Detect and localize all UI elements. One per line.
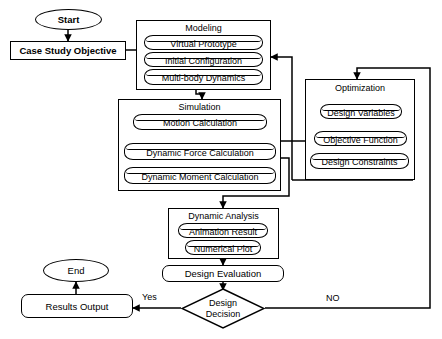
item-objective-function-label: Objective Function [323,135,398,145]
item-animation-result-label: Animation Result [189,227,257,237]
item-animation-result[interactable]: Animation Result [178,223,268,238]
node-case-study-objective[interactable]: Case Study Objective [10,41,126,60]
item-design-constraints[interactable]: Design Constraints [310,153,409,169]
item-multi-body-dynamics[interactable]: Multi-body Dynamics [144,69,263,85]
item-motion-calculation[interactable]: Motion Calculation [133,114,267,130]
item-dynamic-force-calculation-label: Dynamic Force Calculation [146,148,254,158]
node-end[interactable]: End [43,259,109,282]
item-multi-body-dynamics-label: Multi-body Dynamics [162,73,246,83]
design-decision-diamond-shape [181,288,265,329]
flowchart-canvas: Start Case Study Objective Modeling Virt… [0,0,442,339]
item-dynamic-moment-calculation[interactable]: Dynamic Moment Calculation [124,167,276,184]
node-end-label: End [68,265,85,276]
node-results-output-label: Results Output [46,301,109,312]
node-case-study-objective-label: Case Study Objective [19,45,116,56]
group-dynamic-analysis-title: Dynamic Analysis [169,211,278,221]
item-dynamic-moment-calculation-label: Dynamic Moment Calculation [141,172,258,182]
item-initial-configuration[interactable]: Initial Configuration [144,52,263,67]
node-design-evaluation-label: Design Evaluation [185,268,262,279]
node-start-label: Start [58,14,80,25]
item-numerical-plot[interactable]: Numerical Plot [185,240,261,255]
item-objective-function[interactable]: Objective Function [314,131,407,146]
item-numerical-plot-label: Numerical Plot [194,244,253,254]
edge-label-yes: Yes [141,292,158,302]
edge-modeling-to-simulation [196,90,202,99]
item-dynamic-force-calculation[interactable]: Dynamic Force Calculation [124,143,276,160]
item-design-variables[interactable]: Design Variables [320,104,402,119]
node-design-evaluation[interactable]: Design Evaluation [162,265,284,282]
item-design-variables-label: Design Variables [327,108,394,118]
item-virtual-prototype-label: Virtual Prototype [170,39,236,49]
node-start[interactable]: Start [35,9,102,30]
group-modeling-title: Modeling [137,23,270,33]
node-results-output[interactable]: Results Output [21,294,133,318]
node-design-decision[interactable]: Design Decision [181,288,265,329]
edge-label-no: NO [325,293,341,303]
item-design-constraints-label: Design Constraints [321,157,397,167]
group-simulation-title: Simulation [119,102,280,112]
group-optimization-title: Optimization [306,83,414,93]
item-motion-calculation-label: Motion Calculation [163,118,237,128]
item-virtual-prototype[interactable]: Virtual Prototype [144,35,263,50]
item-initial-configuration-label: Initial Configuration [165,56,242,66]
